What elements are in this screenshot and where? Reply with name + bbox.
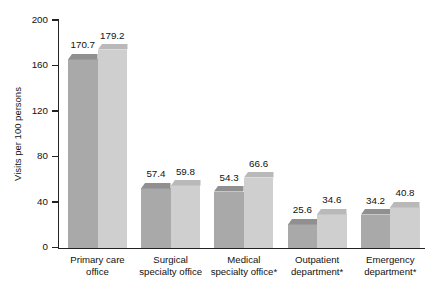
bar-front-face xyxy=(288,224,318,248)
bar-right xyxy=(98,44,128,248)
bar-top-face xyxy=(141,183,175,190)
category-label: Medicalspecialty office* xyxy=(202,254,286,277)
bar-left xyxy=(68,54,98,248)
bar-top-face xyxy=(214,186,248,193)
bar-top-face xyxy=(317,209,351,216)
bar-front-face xyxy=(317,214,347,248)
y-axis-tick-label-text: 160 xyxy=(6,60,48,70)
bar-left xyxy=(214,186,244,248)
category-label: Surgicalspecialty office xyxy=(129,254,213,277)
bar-top-face xyxy=(361,209,395,216)
y-axis-tick-label-text: 120 xyxy=(6,106,48,116)
bar-left xyxy=(141,183,171,248)
y-axis-tick-label-text: 0 xyxy=(6,242,48,252)
category-label: Outpatientdepartment* xyxy=(275,254,359,277)
category-label-line: department* xyxy=(348,266,432,278)
category-label-line: department* xyxy=(275,266,359,278)
bar-top-face xyxy=(171,180,205,187)
bar-front-face xyxy=(214,192,244,248)
bar-left xyxy=(361,209,391,248)
bar-value-label: 66.6 xyxy=(238,159,280,169)
bar-top-face xyxy=(68,54,102,61)
bar-right xyxy=(171,180,201,248)
y-axis-tick-label-text: 80 xyxy=(6,151,48,161)
bar-top-face xyxy=(390,202,424,209)
category-label-line: Outpatient xyxy=(275,254,359,266)
bar-front-face xyxy=(361,215,391,248)
y-axis-title: Visits per 100 persons xyxy=(10,18,24,250)
bar-right xyxy=(317,209,347,248)
category-label-line: office xyxy=(56,266,140,278)
category-label-line: Surgical xyxy=(129,254,213,266)
y-axis-tick-label: 160 xyxy=(0,60,48,70)
y-axis-tick-label: 0 xyxy=(0,242,48,252)
bar-value-label: 34.6 xyxy=(311,195,353,205)
bar-front-face xyxy=(244,178,274,248)
bar-right xyxy=(244,172,274,248)
y-axis-tick-label: 200 xyxy=(0,15,48,25)
y-axis-tick-label-text: 40 xyxy=(6,197,48,207)
bar-front-face xyxy=(390,207,420,248)
bar-right xyxy=(390,202,420,248)
plot-area: 170.7179.257.459.854.366.625.634.634.240… xyxy=(58,20,425,248)
bar-front-face xyxy=(68,59,98,248)
y-axis-tick-label: 120 xyxy=(0,106,48,116)
bar-top-face xyxy=(98,44,132,51)
bar-chart: Visits per 100 persons 04080120160200 17… xyxy=(0,0,437,302)
category-label-line: specialty office* xyxy=(202,266,286,278)
y-axis-tick-label: 40 xyxy=(0,197,48,207)
bar-value-label: 179.2 xyxy=(92,31,134,41)
bar-front-face xyxy=(141,188,171,248)
category-label-line: Medical xyxy=(202,254,286,266)
bar-top-face xyxy=(244,172,278,179)
y-axis-tick-label-text: 200 xyxy=(6,15,48,25)
bar-value-label: 59.8 xyxy=(165,167,207,177)
y-axis-title-text: Visits per 100 persons xyxy=(12,87,23,181)
y-axis-tick-label: 80 xyxy=(0,151,48,161)
category-label-line: Emergency xyxy=(348,254,432,266)
bar-value-label: 40.8 xyxy=(384,188,426,198)
bar-front-face xyxy=(171,185,201,248)
category-label: Emergencydepartment* xyxy=(348,254,432,277)
bar-front-face xyxy=(98,50,128,248)
bar-left xyxy=(288,219,318,248)
bar-top-face xyxy=(288,219,322,226)
category-label: Primary careoffice xyxy=(56,254,140,277)
category-label-line: specialty office xyxy=(129,266,213,278)
category-label-line: Primary care xyxy=(56,254,140,266)
